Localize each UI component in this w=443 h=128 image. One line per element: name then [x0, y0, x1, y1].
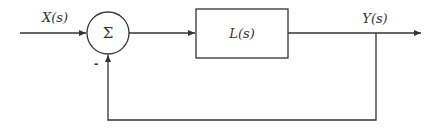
summing-junction: Σ	[87, 12, 129, 54]
transfer-function-block: L(s)	[196, 9, 288, 58]
input-label: X(s)	[41, 10, 68, 25]
output-label: Y(s)	[362, 11, 387, 26]
sigma-symbol: Σ	[103, 24, 114, 42]
block-label: L(s)	[228, 26, 254, 41]
feedback-minus-sign: -	[94, 56, 98, 71]
block-diagram: X(s) Σ - L(s) Y(s)	[0, 0, 443, 128]
